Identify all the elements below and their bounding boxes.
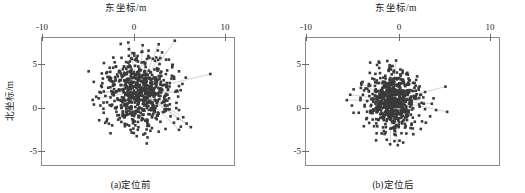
x-axis-title-a: 东坐标/m xyxy=(0,3,257,14)
x-tick-label-b-1: 0 xyxy=(397,22,402,32)
panel-caption-b: (b)定位后 xyxy=(262,179,524,191)
x-tick-label-a-2: 10 xyxy=(221,22,230,32)
scatter-svg-a xyxy=(42,38,234,165)
x-tick-label-b-0: -10 xyxy=(300,22,312,32)
plot-area-b: -10 0 10 5 0 -5 xyxy=(305,37,500,166)
scatter-canvas-b xyxy=(306,38,499,165)
x-tick-label-b-2: 10 xyxy=(486,22,495,32)
x-tick-label-a-0: -10 xyxy=(36,22,48,32)
panel-a: 东坐标/m 北坐标/m -10 0 10 5 0 -5 xyxy=(0,0,262,193)
y-tick-label-b-0: 5 xyxy=(297,59,302,69)
panel-caption-a: (a)定位前 xyxy=(0,179,262,191)
figure-container: 东坐标/m 北坐标/m -10 0 10 5 0 -5 xyxy=(0,0,525,193)
y-tick-label-b-1: 0 xyxy=(297,103,302,113)
scatter-canvas-a xyxy=(42,38,234,165)
y-tick-label-b-2: -5 xyxy=(294,146,302,156)
x-axis-title-b: 东坐标/m xyxy=(265,3,525,14)
y-tick-label-a-2: -5 xyxy=(30,146,38,156)
y-axis-title-a: 北坐标/m xyxy=(5,73,15,129)
scatter-svg-b xyxy=(306,38,499,165)
x-tick-label-a-1: 0 xyxy=(132,22,137,32)
panel-b: 东坐标/m 北坐标/m -10 0 10 5 0 -5 (b)定位 xyxy=(262,0,524,193)
y-tick-label-a-0: 5 xyxy=(33,59,38,69)
plot-area-a: -10 0 10 5 0 -5 xyxy=(41,37,235,166)
y-tick-label-a-1: 0 xyxy=(33,103,38,113)
